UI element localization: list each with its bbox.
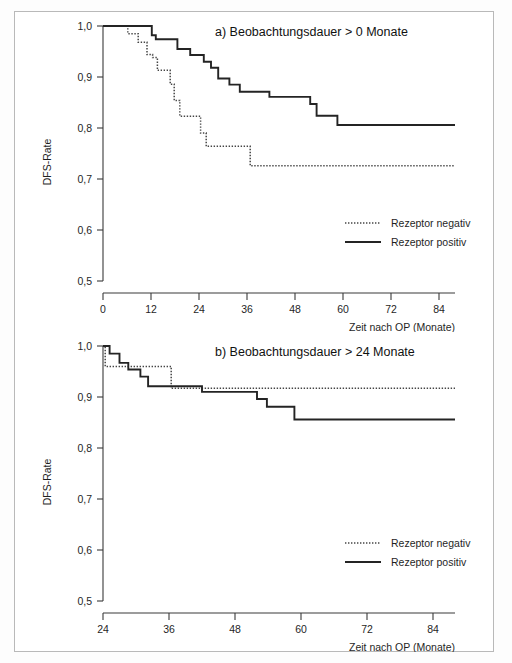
panel-a-ytick-0.9: 0,9 (77, 71, 92, 83)
panel-a-xtick-48: 48 (289, 303, 301, 315)
panel-a-legend: Rezeptor negativ Rezeptor positiv (345, 217, 471, 248)
panel-a-xtick-72: 72 (385, 303, 397, 315)
panel-a-ytick-1.0: 1,0 (77, 20, 92, 32)
panel-b-ytick-0.9: 0,9 (77, 391, 92, 403)
panel-a-xtick-60: 60 (337, 303, 349, 315)
panel-b-legend: Rezeptor negativ Rezeptor positiv (345, 537, 471, 568)
panel-b-ytick-0.8: 0,8 (77, 442, 92, 454)
panel-a-ytick-0.8: 0,8 (77, 122, 92, 134)
panel-b-x-axis-title: Zeit nach OP (Monate) (349, 641, 455, 652)
panel-b: 1,0 0,9 0,8 0,7 0,6 0,5 DFS-Rate (15, 332, 495, 652)
panel-b-legend-label-negativ: Rezeptor negativ (391, 537, 471, 549)
panel-a-ytick-0.5: 0,5 (77, 275, 92, 287)
panel-a-legend-label-negativ: Rezeptor negativ (391, 217, 471, 229)
panel-b-title: b) Beobachtungsdauer > 24 Monate (215, 345, 415, 359)
panel-a-xtick-24: 24 (193, 303, 205, 315)
panel-a-legend-label-positiv: Rezeptor positiv (391, 236, 467, 248)
panel-a-ytick-0.7: 0,7 (77, 173, 92, 185)
panel-b-xtick-84: 84 (427, 623, 439, 635)
panel-b-x-ticks (103, 613, 433, 620)
panel-a-title: a) Beobachtungsdauer > 0 Monate (215, 25, 408, 39)
panel-b-xtick-48: 48 (229, 623, 241, 635)
panel-a-y-axis-title: DFS-Rate (41, 139, 53, 186)
panel-a-xtick-84: 84 (433, 303, 445, 315)
panel-a-plot: 1,0 0,9 0,8 0,7 0,6 0,5 DFS-Rate (15, 12, 495, 332)
figure-root: 1,0 0,9 0,8 0,7 0,6 0,5 DFS-Rate (0, 0, 512, 663)
panel-b-y-axis-title: DFS-Rate (41, 459, 53, 506)
panel-b-xtick-60: 60 (295, 623, 307, 635)
panel-a-curve-positiv (103, 26, 455, 125)
figure-frame: 1,0 0,9 0,8 0,7 0,6 0,5 DFS-Rate (14, 11, 494, 652)
panel-a-x-axis-title: Zeit nach OP (Monate) (349, 321, 455, 332)
panel-a-curve-negativ (103, 26, 455, 166)
panel-a-xtick-12: 12 (145, 303, 157, 315)
panel-a-x-ticks (103, 293, 439, 300)
panel-a-xtick-0: 0 (100, 303, 106, 315)
panel-b-ytick-1.0: 1,0 (77, 340, 92, 352)
panel-b-ytick-0.7: 0,7 (77, 493, 92, 505)
panel-b-xtick-36: 36 (163, 623, 175, 635)
panel-b-ytick-0.5: 0,5 (77, 595, 92, 607)
panel-a-y-ticks (97, 26, 103, 281)
panel-a-ytick-0.6: 0,6 (77, 224, 92, 236)
panel-b-svg: 1,0 0,9 0,8 0,7 0,6 0,5 DFS-Rate (15, 332, 495, 652)
panel-b-xtick-24: 24 (97, 623, 109, 635)
panel-b-xtick-72: 72 (361, 623, 373, 635)
panel-b-legend-label-positiv: Rezeptor positiv (391, 556, 467, 568)
panel-b-ytick-0.6: 0,6 (77, 544, 92, 556)
panel-a: 1,0 0,9 0,8 0,7 0,6 0,5 DFS-Rate (15, 12, 495, 332)
panel-a-xtick-36: 36 (241, 303, 253, 315)
panel-a-svg: 1,0 0,9 0,8 0,7 0,6 0,5 DFS-Rate (15, 12, 495, 332)
panel-b-y-ticks (97, 346, 103, 601)
panel-b-plot: 1,0 0,9 0,8 0,7 0,6 0,5 DFS-Rate (15, 332, 495, 652)
